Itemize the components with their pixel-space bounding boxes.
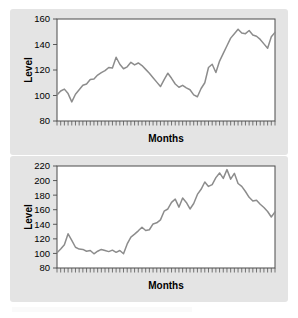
y-tick-label: 160	[34, 13, 50, 24]
y-tick-label: 100	[34, 90, 50, 101]
y-tick-label: 120	[34, 64, 50, 75]
y-axis-label-top: Level	[23, 57, 34, 83]
y-tick-label: 100	[34, 248, 50, 259]
figure-canvas: 80100120140160 Level Months 801001201401…	[0, 0, 298, 318]
chart-panel-top: 80100120140160 Level Months	[10, 9, 288, 155]
x-axis-minor-ticks-bottom	[57, 268, 275, 273]
y-tick-label: 120	[34, 233, 50, 244]
plot-background-top	[57, 19, 275, 121]
x-axis-label-bottom: Months	[148, 280, 184, 291]
y-axis-label-bottom: Level	[23, 204, 34, 230]
y-tick-label: 80	[39, 115, 50, 126]
y-axis-ticks-bottom: 80100120140160180200220	[34, 160, 57, 273]
y-tick-label: 200	[34, 175, 50, 186]
x-axis-minor-ticks-top	[57, 121, 275, 126]
y-tick-label: 140	[34, 219, 50, 230]
y-tick-label: 140	[34, 39, 50, 50]
scan-artifact-strip	[12, 307, 192, 312]
y-tick-label: 220	[34, 160, 50, 171]
plot-background-bottom	[57, 166, 275, 268]
chart-top-svg: 80100120140160 Level Months	[10, 9, 288, 155]
y-tick-label: 180	[34, 190, 50, 201]
y-tick-label: 80	[39, 262, 50, 273]
y-tick-label: 160	[34, 204, 50, 215]
y-axis-ticks-top: 80100120140160	[34, 13, 57, 126]
x-axis-label-top: Months	[148, 133, 184, 144]
chart-bottom-svg: 80100120140160180200220 Level Months	[10, 156, 288, 302]
chart-panel-bottom: 80100120140160180200220 Level Months	[10, 156, 288, 302]
